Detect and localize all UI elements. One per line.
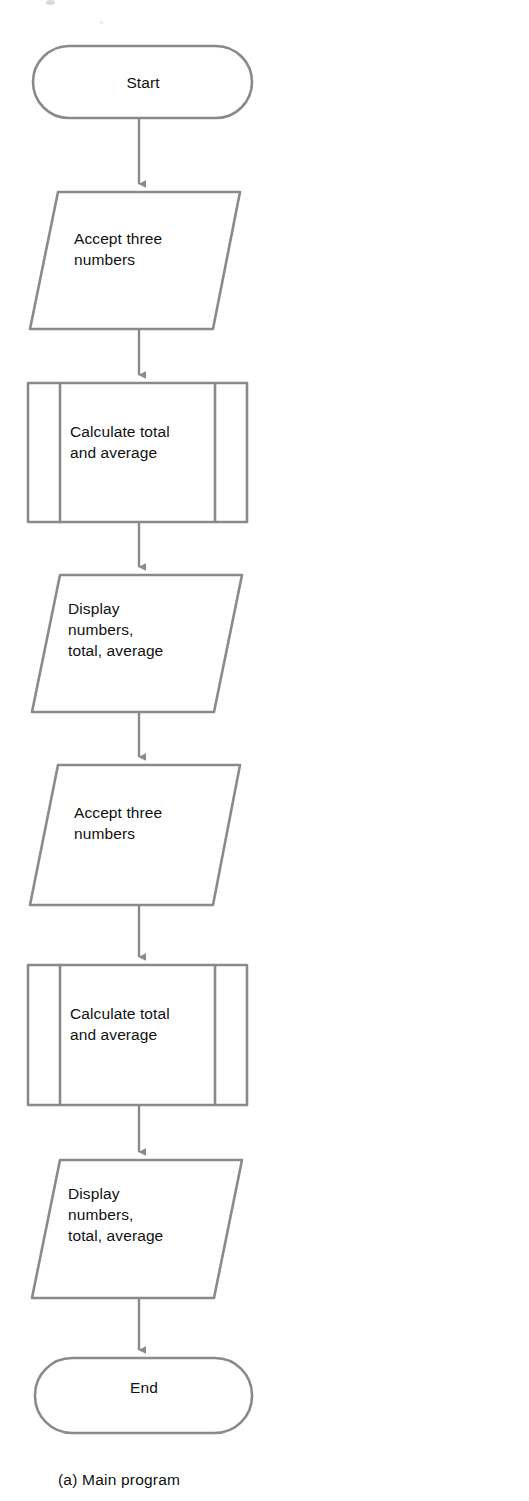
node-display-2-label: Display numbers, total, average [68,1183,163,1246]
node-end-label: End [106,1377,182,1398]
node-calculate-1-label: Calculate total and average [70,421,170,463]
node-calculate-2-label: Calculate total and average [70,1003,170,1045]
flowchart-canvas [0,0,529,1501]
figure-caption: (a) Main program [58,1471,180,1489]
node-accept-numbers-1-label: Accept three numbers [74,228,162,270]
node-accept-numbers-2-label: Accept three numbers [74,802,162,844]
node-start-label: Start [105,72,181,93]
flowchart-page: Start Accept three numbers Calculate tot… [0,0,529,1501]
node-display-1-label: Display numbers, total, average [68,598,163,661]
